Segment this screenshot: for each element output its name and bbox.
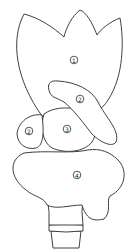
svg-text:4: 4 xyxy=(75,172,79,179)
svg-text:1: 1 xyxy=(72,57,76,64)
svg-text:2: 2 xyxy=(78,96,82,103)
badge-1: 1 xyxy=(70,56,78,64)
badge-2-left-bud: 2 xyxy=(25,127,33,135)
badge-2-leaf: 2 xyxy=(76,95,84,103)
badge-4: 4 xyxy=(73,171,81,179)
vase-foot xyxy=(51,231,81,248)
flower-diagram: 1 2 2 3 4 xyxy=(0,0,137,252)
badge-3: 3 xyxy=(63,125,71,133)
svg-text:3: 3 xyxy=(65,126,69,133)
svg-text:2: 2 xyxy=(27,128,31,135)
